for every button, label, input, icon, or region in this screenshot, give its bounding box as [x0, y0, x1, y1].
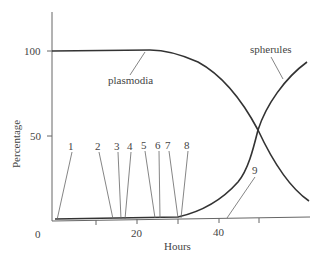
y-tick-label-50: 50: [30, 130, 42, 142]
x-origin-label: 0: [35, 228, 41, 240]
marker-label-6: 6: [155, 139, 161, 151]
x-axis-title: Hours: [164, 240, 191, 252]
marker-leader-5: [145, 151, 155, 218]
marker-label-3: 3: [114, 140, 120, 152]
marker-leader-7: [169, 151, 178, 218]
marker-label-5: 5: [141, 139, 147, 151]
marker-label-9: 9: [252, 164, 258, 176]
marker-leader-1: [57, 152, 72, 220]
spherules-leader: [271, 57, 283, 79]
marker-leader-6: [159, 151, 160, 218]
marker-label-7: 7: [165, 139, 171, 151]
x-tick-label-40: 40: [213, 226, 225, 238]
plasmodia-leader: [130, 52, 145, 75]
marker-label-4: 4: [127, 140, 133, 152]
line-chart: 100 50 0 20 40 Hours Percentage plasmodi…: [0, 0, 319, 262]
marker-label-1: 1: [68, 140, 74, 152]
spherules-curve: [55, 62, 307, 219]
marker-leader-8: [181, 151, 188, 218]
x-tick-label-20: 20: [131, 227, 143, 239]
plasmodia-curve: [52, 50, 309, 201]
marker-leader-3: [118, 152, 121, 219]
marker-leader-9: [227, 177, 255, 218]
y-tick-label-100: 100: [24, 45, 41, 57]
spherules-label: spherules: [250, 43, 292, 55]
marker-label-8: 8: [184, 139, 190, 151]
marker-leader-4: [125, 152, 131, 219]
marker-leader-2: [99, 152, 113, 219]
y-axis-title: Percentage: [10, 120, 22, 168]
marker-label-2: 2: [95, 140, 101, 152]
plasmodia-label: plasmodia: [108, 74, 153, 86]
